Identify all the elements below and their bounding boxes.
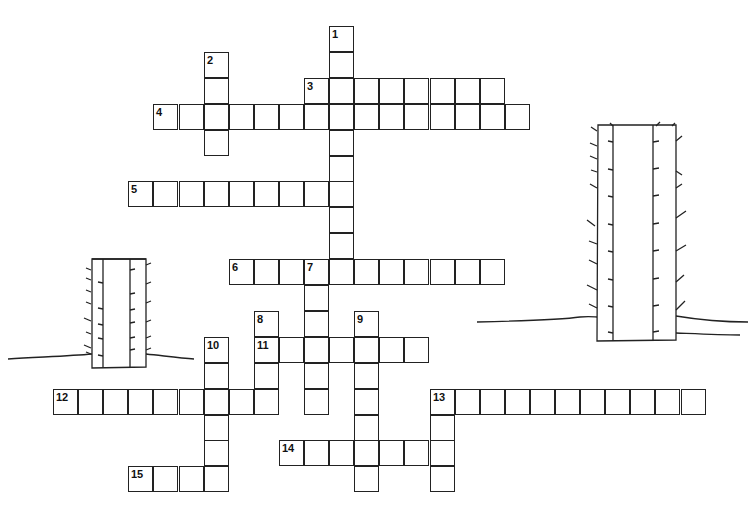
right-ground-line-3 xyxy=(676,333,740,335)
left-ground-line-right xyxy=(146,354,194,359)
right-ground-line-2 xyxy=(676,316,748,322)
right-cactus-icon xyxy=(587,122,686,341)
right-ground-line xyxy=(477,317,597,322)
left-ground-line xyxy=(8,354,92,359)
cactus-decorations xyxy=(0,0,749,511)
left-cactus-icon xyxy=(84,259,151,368)
